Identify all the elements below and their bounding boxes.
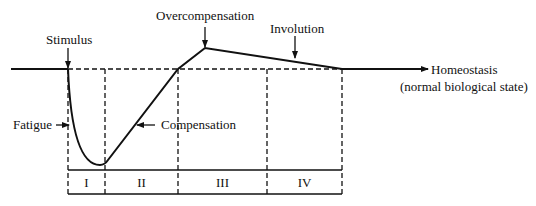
- stimulus-label: Stimulus: [46, 32, 92, 47]
- phase-2-label: II: [137, 175, 146, 190]
- phase-1-label: I: [84, 175, 88, 190]
- supercompensation-diagram: Stimulus Overcompensation Involution Fat…: [0, 0, 536, 206]
- homeostasis-sublabel: (normal biological state): [400, 79, 528, 94]
- fatigue-label: Fatigue: [13, 117, 52, 132]
- involution-label: Involution: [270, 21, 325, 36]
- overcompensation-label: Overcompensation: [156, 8, 255, 23]
- phase-3-label: III: [216, 175, 229, 190]
- homeostasis-label: Homeostasis: [431, 62, 497, 77]
- compensation-label: Compensation: [161, 117, 237, 132]
- response-curve: [68, 48, 342, 165]
- phase-4-label: IV: [298, 175, 312, 190]
